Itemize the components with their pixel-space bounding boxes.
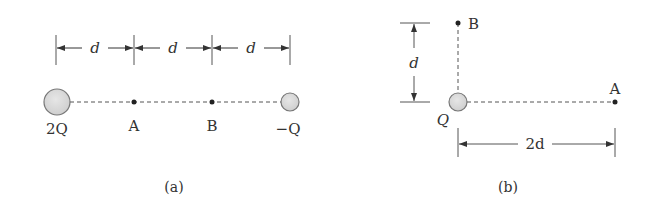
charge-minus-q xyxy=(281,93,299,111)
horizontal-dimension-label: 2d xyxy=(525,135,545,153)
label-2q: 2Q xyxy=(46,120,68,138)
label-point-b: B xyxy=(206,117,217,135)
label-minus-q: −Q xyxy=(276,120,301,138)
charge-q xyxy=(449,93,467,111)
point-b-fig-b xyxy=(456,21,461,26)
point-b xyxy=(210,100,215,105)
dimension-label-d1: d xyxy=(90,39,100,57)
vertical-dimension-label: d xyxy=(409,54,419,72)
dimension-label-d3: d xyxy=(246,39,256,57)
label-point-a: A xyxy=(128,117,140,135)
dimension-label-d2: d xyxy=(168,39,178,57)
point-a-fig-b xyxy=(613,100,618,105)
figure-b: d B A Q 2d (b) xyxy=(400,15,621,195)
label-point-a-fig-b: A xyxy=(609,80,621,98)
caption-a: (a) xyxy=(164,179,183,195)
label-q-fig-b: Q xyxy=(437,111,449,129)
charge-2q xyxy=(44,89,70,115)
caption-b: (b) xyxy=(498,179,518,195)
point-a xyxy=(132,100,137,105)
label-point-b-fig-b: B xyxy=(468,15,479,33)
figure-a: d d d 2Q A B −Q (a) xyxy=(44,35,300,195)
